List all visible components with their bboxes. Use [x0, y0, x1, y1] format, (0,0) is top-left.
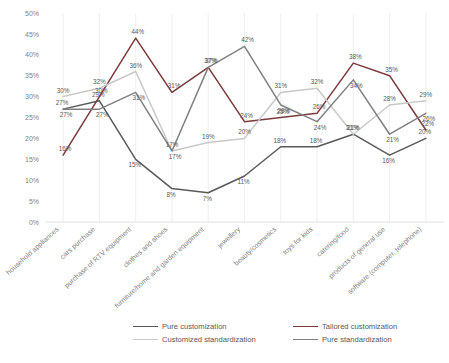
legend-item[interactable]: Pure standardization [293, 335, 433, 344]
data-point-label: 30% [95, 87, 108, 94]
x-axis-category-label: household appliances [5, 225, 61, 277]
data-point-label: 26% [313, 103, 326, 110]
legend-label: Pure customization [162, 322, 227, 331]
data-point-label: 31% [168, 82, 181, 89]
data-point-label: 29% [420, 91, 433, 98]
x-axis-category-label: purchase of RTV equipment [63, 226, 133, 290]
data-point-label: 20% [238, 128, 251, 135]
legend-item[interactable]: Tailored customization [293, 322, 433, 331]
chart-plot-area: 0%5%10%15%20%25%30%35%40%45%50%27%29%15%… [0, 0, 449, 320]
y-axis-tick-label: 45% [25, 31, 39, 38]
legend-label: Tailored customization [322, 322, 397, 331]
data-point-label: 36% [129, 62, 142, 69]
data-point-label: 28% [277, 107, 290, 114]
data-point-label: 17% [169, 153, 182, 160]
data-point-label: 8% [166, 191, 176, 198]
data-point-label: 26% [423, 115, 436, 122]
y-axis-tick-label: 15% [25, 156, 39, 163]
x-axis-category-label: software (computer, telephone) [346, 226, 423, 297]
y-axis-tick-label: 0% [29, 219, 39, 226]
data-point-label: 7% [203, 195, 213, 202]
figure-caption [4, 353, 444, 363]
data-point-label: 16% [59, 145, 72, 152]
legend-label: Pure standardization [322, 335, 392, 344]
y-axis-tick-label: 50% [25, 10, 39, 17]
data-point-label: 31% [274, 82, 287, 89]
data-point-label: 19% [202, 133, 215, 140]
x-axis-category-label: cars purchase [59, 225, 97, 260]
data-point-label: 16% [382, 157, 395, 164]
legend-swatch-icon [133, 326, 158, 327]
legend-swatch-icon [293, 326, 318, 327]
y-axis-tick-label: 40% [25, 51, 39, 58]
data-point-label: 20% [419, 128, 432, 135]
data-point-label: 27% [96, 111, 109, 118]
data-point-label: 18% [273, 137, 286, 144]
data-point-label: 44% [131, 28, 144, 35]
x-axis-category-label: catering/food [315, 225, 351, 258]
legend-item[interactable]: Pure customization [133, 322, 293, 331]
data-point-label: 15% [128, 161, 141, 168]
data-point-label: 11% [237, 178, 250, 185]
data-point-label: 37% [205, 57, 218, 64]
y-axis-tick-label: 10% [25, 177, 39, 184]
data-point-label: 27% [56, 99, 69, 106]
data-point-label: 42% [241, 36, 254, 43]
y-axis-tick-label: 30% [25, 93, 39, 100]
data-point-label: 35% [385, 66, 398, 73]
data-point-label: 32% [311, 78, 324, 85]
y-axis-tick-label: 20% [25, 135, 39, 142]
data-point-label: 32% [93, 78, 106, 85]
data-point-label: 17% [166, 141, 179, 148]
x-axis-category-label: jewellery [216, 225, 243, 250]
data-point-label: 24% [314, 124, 327, 131]
chart-legend: Pure customizationTailored customization… [133, 322, 433, 348]
legend-label: Customized standardization [162, 335, 256, 344]
data-point-label: 38% [349, 53, 362, 60]
x-axis-category-label: toys for kids [281, 225, 314, 256]
data-point-label: 18% [310, 137, 323, 144]
data-point-label: 31% [132, 94, 145, 101]
data-point-label: 27% [60, 111, 73, 118]
data-point-label: 24% [240, 112, 253, 119]
legend-swatch-icon [133, 339, 158, 340]
y-axis-tick-label: 35% [25, 72, 39, 79]
legend-item[interactable]: Customized standardization [133, 335, 293, 344]
data-point-label: 34% [350, 82, 363, 89]
data-point-label: 30% [57, 87, 70, 94]
y-axis-tick-label: 5% [29, 198, 39, 205]
y-axis-tick-label: 25% [25, 114, 39, 121]
data-point-label: 28% [383, 95, 396, 102]
data-point-label: 21% [386, 136, 399, 143]
line-chart: 0%5%10%15%20%25%30%35%40%45%50%27%29%15%… [0, 0, 449, 363]
data-point-label: 21% [347, 124, 360, 131]
legend-swatch-icon [293, 339, 318, 340]
